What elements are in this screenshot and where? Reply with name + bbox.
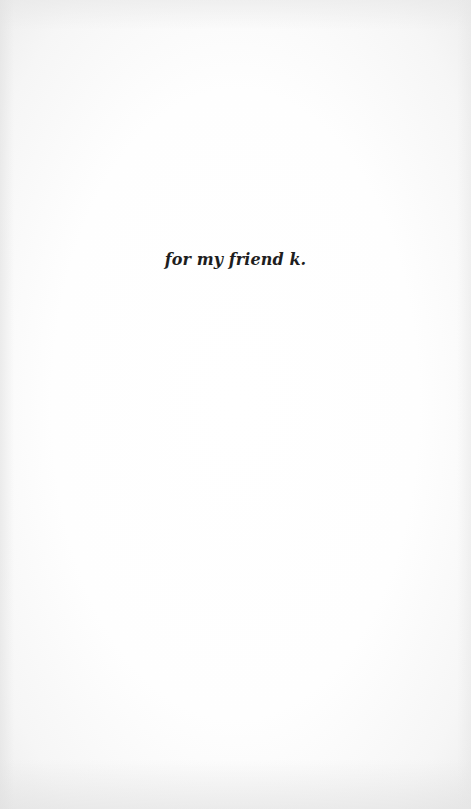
page-edge-shadow-top — [0, 0, 471, 30]
page-edge-shadow-bottom — [0, 759, 471, 809]
page-edge-shadow-left — [0, 0, 14, 809]
page-edge-shadow-right — [457, 0, 471, 809]
book-page: for my friend k. — [0, 0, 471, 809]
dedication-text: for my friend k. — [0, 248, 471, 272]
